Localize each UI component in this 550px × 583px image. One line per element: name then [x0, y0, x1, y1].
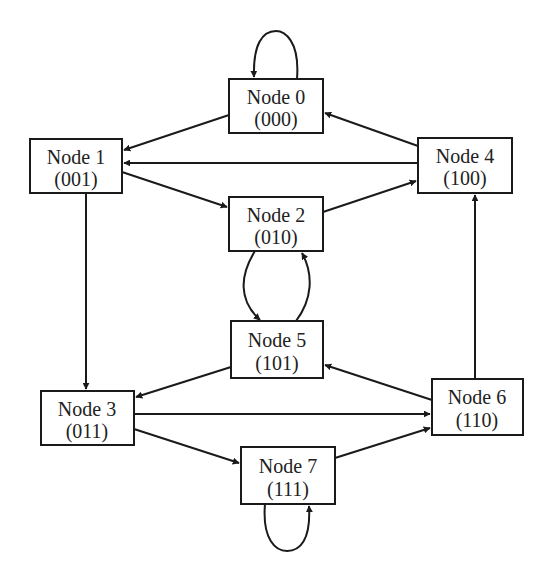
edge-1-to-2 — [122, 172, 227, 207]
state-diagram: Node 0 (000) Node 1 (001) Node 2 (010) N… — [0, 0, 550, 583]
edge-7-to-7 — [265, 504, 310, 551]
node-0-name: Node 0 — [247, 86, 305, 108]
edge-0-to-0 — [254, 31, 297, 79]
node-5: Node 5 (101) — [231, 321, 323, 378]
edge-2-to-4 — [323, 181, 416, 212]
edge-3-to-7 — [134, 429, 239, 463]
node-3: Node 3 (011) — [41, 391, 134, 445]
edge-5-to-2 — [296, 253, 310, 321]
node-7: Node 7 (111) — [241, 447, 335, 504]
node-3-code: (011) — [66, 420, 109, 443]
node-3-name: Node 3 — [58, 398, 116, 420]
node-4-name: Node 4 — [436, 145, 494, 167]
node-1-code: (001) — [54, 168, 97, 191]
edge-6-to-5 — [325, 365, 432, 400]
node-4: Node 4 (100) — [418, 138, 512, 193]
node-1-name: Node 1 — [47, 146, 105, 168]
node-2-name: Node 2 — [247, 204, 305, 226]
node-0-code: (000) — [254, 108, 297, 131]
node-4-code: (100) — [443, 167, 486, 190]
node-6-name: Node 6 — [448, 386, 506, 408]
node-2: Node 2 (010) — [229, 197, 323, 251]
node-7-name: Node 7 — [259, 455, 317, 477]
node-1: Node 1 (001) — [30, 139, 122, 193]
node-0: Node 0 (000) — [229, 79, 323, 133]
edge-7-to-6 — [335, 428, 430, 458]
node-6: Node 6 (110) — [432, 379, 523, 435]
node-2-code: (010) — [254, 226, 297, 249]
node-7-code: (111) — [267, 478, 309, 501]
node-6-code: (110) — [456, 409, 499, 432]
edge-0-to-1 — [124, 115, 229, 150]
node-5-code: (101) — [255, 352, 298, 375]
node-5-name: Node 5 — [248, 329, 306, 351]
edge-2-to-5 — [244, 251, 260, 320]
edge-4-to-0 — [325, 113, 418, 146]
edge-5-to-3 — [136, 367, 231, 397]
